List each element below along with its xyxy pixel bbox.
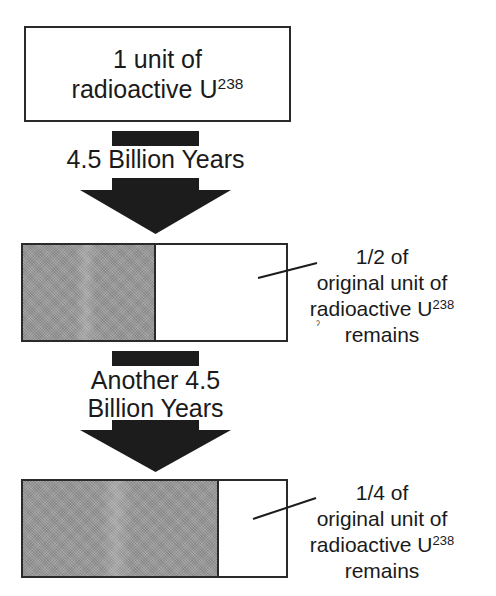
down-arrow-icon (80, 420, 231, 472)
quarter-remaining-label: 1/4 of original unit of radioactive U238… (292, 480, 472, 584)
time-label-2-line-1: Another 4.5 (0, 366, 311, 394)
initial-uranium-box: 1 unit of radioactive U238 (24, 26, 291, 122)
decayed-portion-shading (23, 245, 156, 340)
time-bar-2 (112, 351, 199, 366)
decayed-portion-shading (23, 481, 219, 576)
half-label-line-2: original unit of (292, 270, 472, 296)
initial-line-1: 1 unit of (113, 44, 202, 74)
time-label-1-line-1: 4.5 Billion Years (0, 145, 311, 173)
half-label-line-1: 1/2 of (292, 244, 472, 270)
time-label-2-line-2: Billion Years (0, 394, 311, 422)
isotope-superscript: 238 (432, 297, 454, 312)
half-remaining-box (21, 243, 288, 342)
quarter-remaining-box (21, 479, 288, 578)
quarter-label-line-4: remains (292, 558, 472, 584)
quarter-label-line-2: original unit of (292, 506, 472, 532)
isotope-superscript: 238 (218, 75, 244, 92)
time-bar-1 (112, 131, 199, 146)
initial-line-2-text: radioactive U (72, 75, 218, 103)
quarter-label-line-3: radioactive U238 (292, 532, 472, 558)
time-label-1: 4.5 Billion Years (0, 145, 311, 173)
down-arrow-icon (80, 178, 231, 234)
quarter-label-line-3-text: radioactive U (310, 533, 433, 556)
quarter-label-line-1: 1/4 of (292, 480, 472, 506)
print-speck: ˀ (316, 320, 320, 331)
time-label-2: Another 4.5 Billion Years (0, 366, 311, 422)
isotope-superscript: 238 (432, 533, 454, 548)
half-remaining-label: 1/2 of original unit of radioactive U238… (292, 244, 472, 348)
initial-line-2: radioactive U238 (72, 74, 244, 104)
half-label-line-3-text: radioactive U (310, 297, 433, 320)
